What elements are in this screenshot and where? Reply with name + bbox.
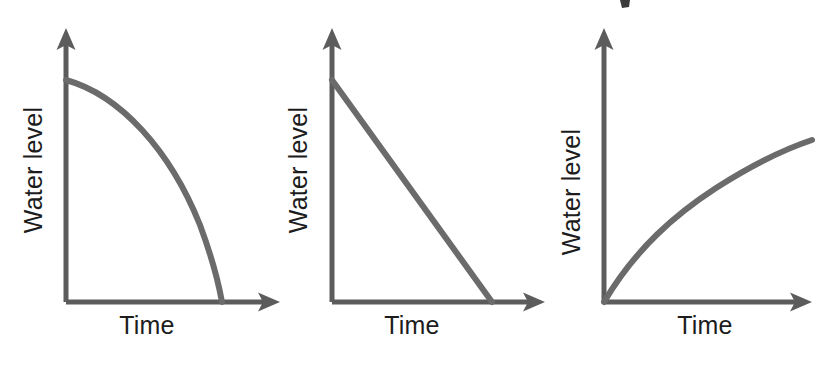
panel-right-y-axis-label: Water level bbox=[557, 129, 585, 255]
graphs-canvas: Water level Time Water level Time Water … bbox=[0, 0, 828, 365]
panel-left-curve bbox=[66, 80, 222, 302]
panel-left-y-axis-label: Water level bbox=[19, 107, 47, 233]
panel-left-graph: Water level Time bbox=[19, 28, 280, 339]
three-graphs-figure: Water level Time Water level Time Water … bbox=[0, 0, 828, 365]
panel-right-x-axis-label: Time bbox=[677, 311, 732, 339]
panel-middle-line bbox=[332, 80, 492, 302]
panel-middle-graph: Water level Time bbox=[284, 28, 545, 339]
cropped-glyph-artifact bbox=[620, 0, 630, 8]
panel-right-curve bbox=[604, 140, 812, 302]
panel-right-graph: Water level Time bbox=[557, 28, 812, 339]
panel-middle-y-axis-label: Water level bbox=[284, 107, 312, 233]
panel-left-x-axis-label: Time bbox=[119, 311, 174, 339]
panel-middle-x-axis-label: Time bbox=[384, 311, 439, 339]
